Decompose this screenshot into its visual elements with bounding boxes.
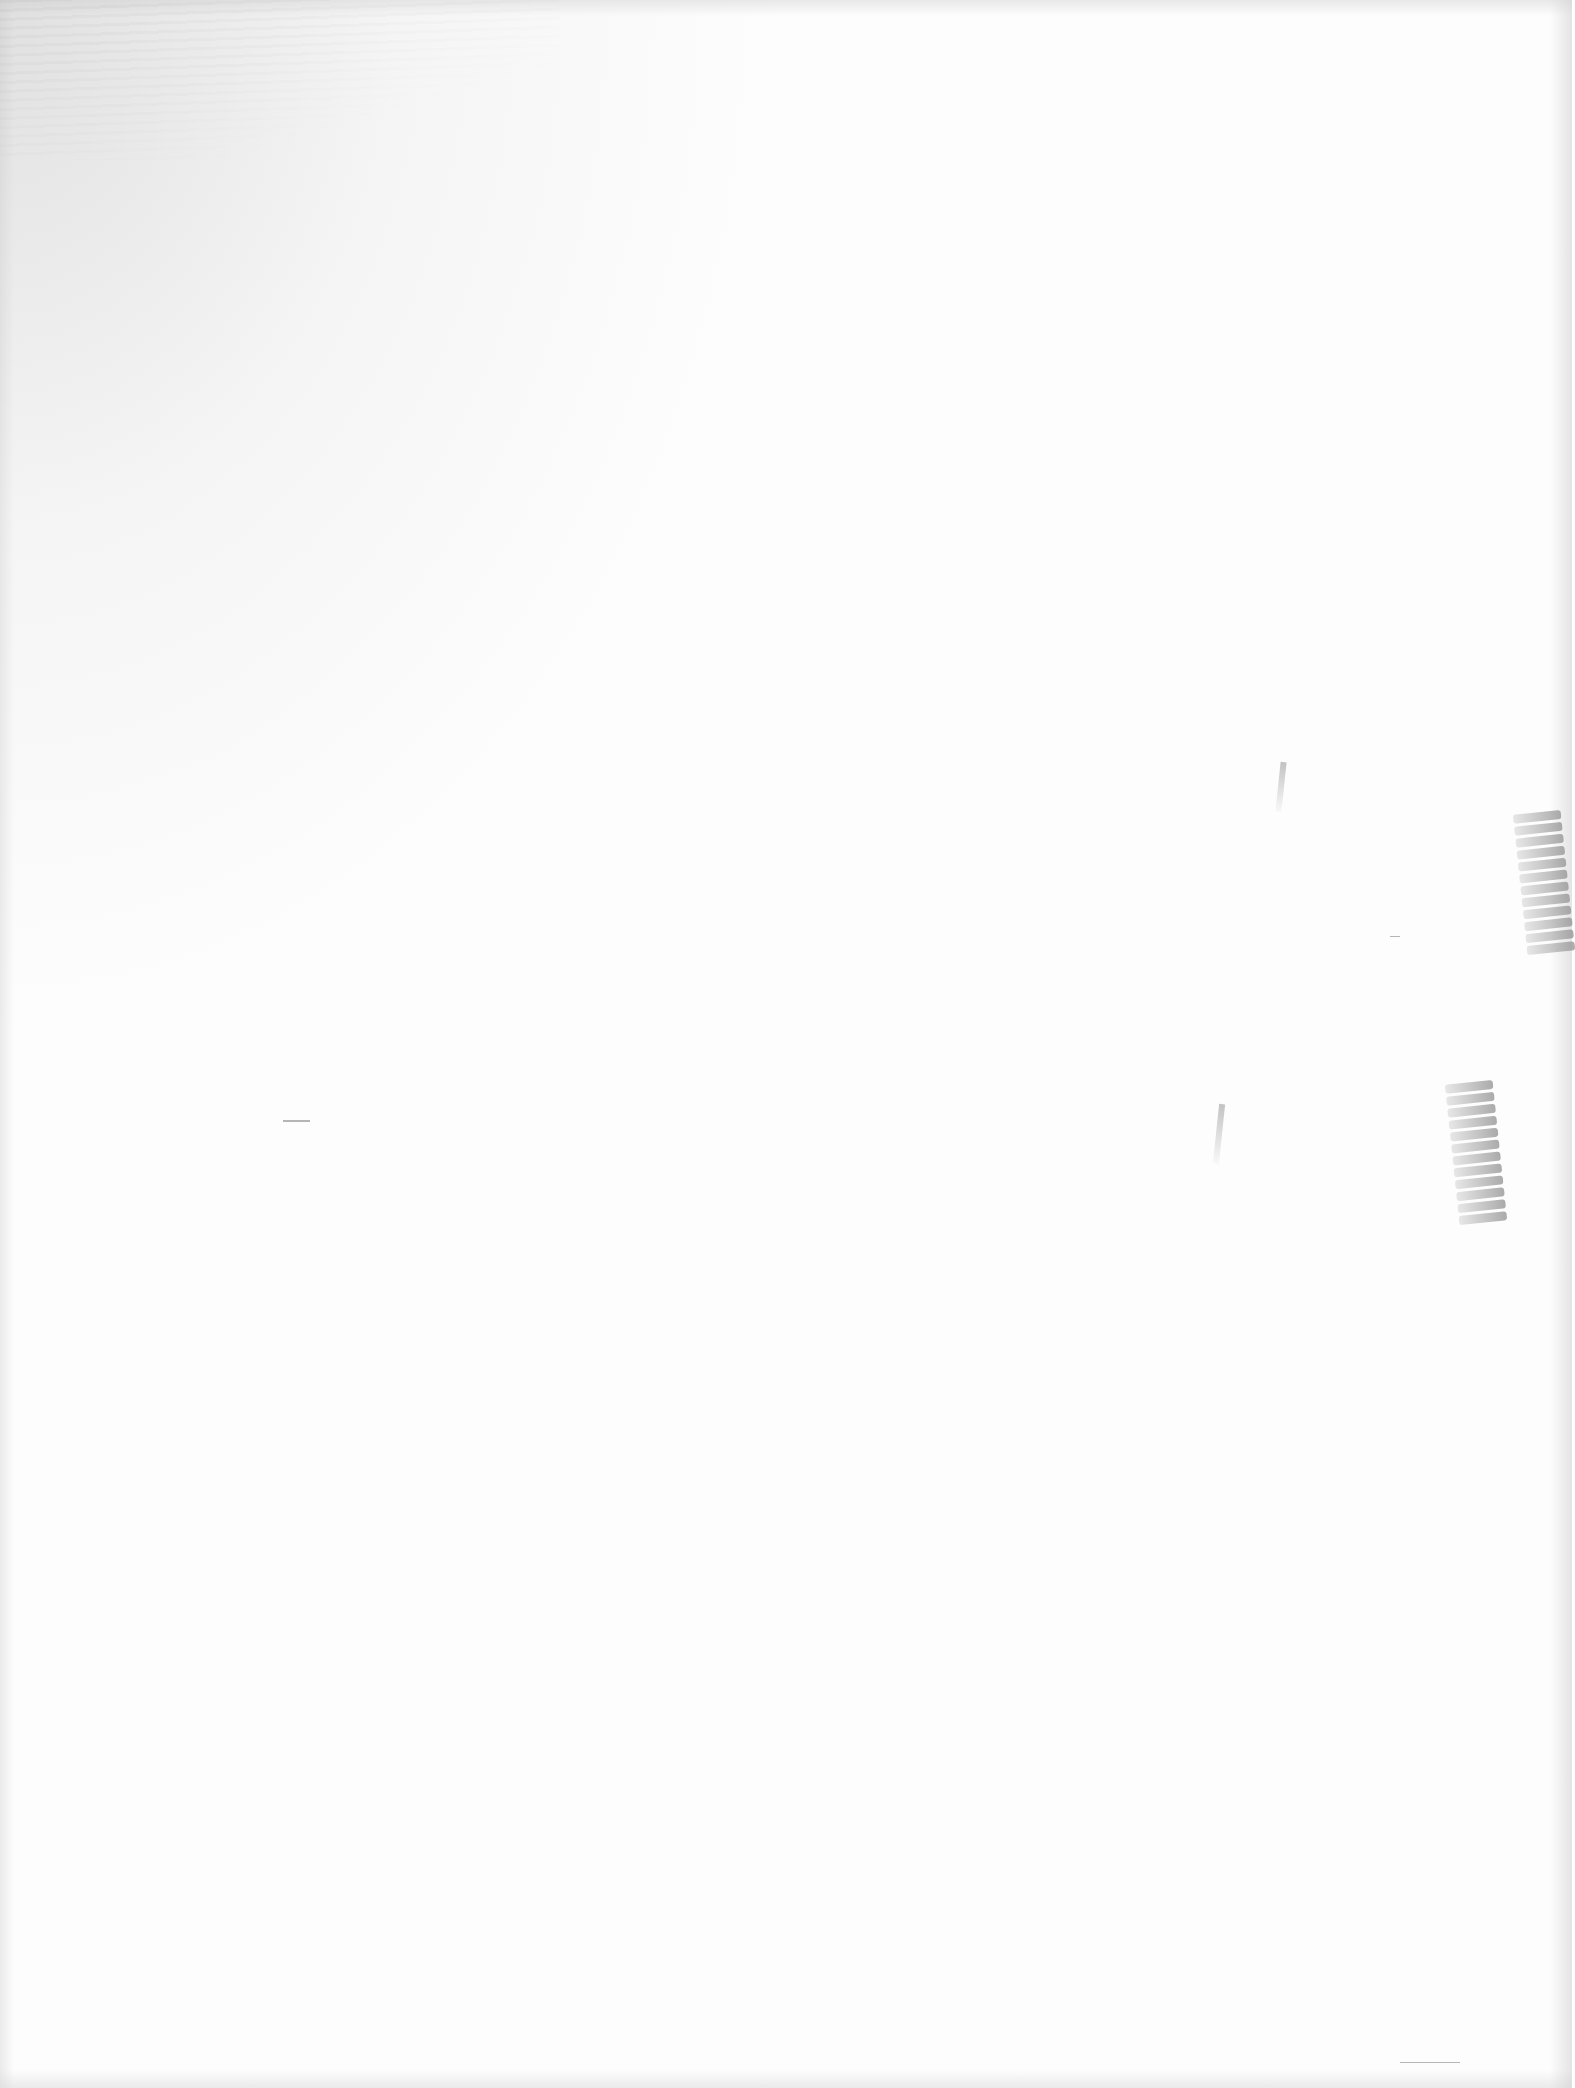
- faint-tick-mark-upper: [1275, 762, 1286, 812]
- smudge-artifact-lower: [1445, 1080, 1507, 1225]
- stray-dash-left: [283, 1120, 310, 1122]
- stray-dash-bottom-right: [1400, 2062, 1460, 2063]
- stray-mark: [1390, 936, 1400, 937]
- faint-tick-mark-lower: [1213, 1104, 1225, 1164]
- smudge-artifact-upper: [1513, 810, 1575, 955]
- bleed-through-artifact: [0, 0, 560, 160]
